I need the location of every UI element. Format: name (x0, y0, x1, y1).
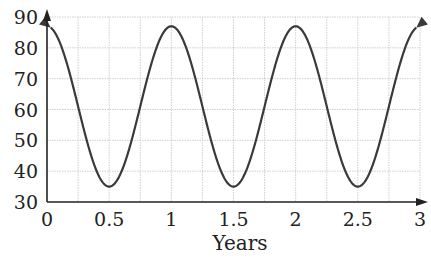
grid-lines (47, 17, 420, 202)
x-tick-labels: 00.511.522.53 (41, 208, 426, 230)
y-tick-label: 60 (14, 99, 38, 121)
x-tick-label: 0 (41, 208, 53, 230)
y-tick-label: 90 (14, 6, 38, 28)
x-axis-arrow-icon (416, 198, 428, 206)
y-tick-labels: 30405060708090 (14, 6, 38, 213)
y-tick-label: 50 (14, 129, 38, 151)
x-tick-label: 2.5 (343, 208, 373, 230)
y-axis-arrow-icon (43, 9, 51, 21)
x-tick-label: 1.5 (218, 208, 248, 230)
x-tick-label: 1 (165, 208, 177, 230)
curve-arrowhead-icon (416, 17, 428, 28)
chart: 30405060708090 00.511.522.53 Years (0, 0, 431, 260)
x-axis-label: Years (211, 231, 267, 255)
y-tick-label: 80 (14, 37, 38, 59)
y-tick-label: 70 (14, 68, 38, 90)
x-tick-label: 2 (290, 208, 302, 230)
x-tick-label: 0.5 (94, 208, 124, 230)
axes (43, 9, 428, 206)
y-tick-label: 40 (14, 160, 38, 182)
y-tick-label: 30 (14, 191, 38, 213)
x-tick-label: 3 (414, 208, 426, 230)
